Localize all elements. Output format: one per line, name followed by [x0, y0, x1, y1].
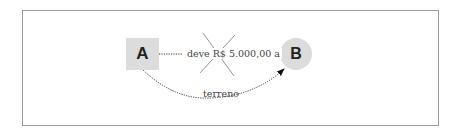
node-b-label: B [290, 45, 302, 63]
node-a-label: A [136, 44, 148, 64]
node-b: B [280, 38, 312, 70]
edge-terreno-label: terreno [203, 88, 239, 99]
edge-debt-label: deve R$ 5.000,00 a [185, 48, 282, 59]
edges-layer [0, 0, 462, 137]
node-a: A [126, 38, 159, 70]
